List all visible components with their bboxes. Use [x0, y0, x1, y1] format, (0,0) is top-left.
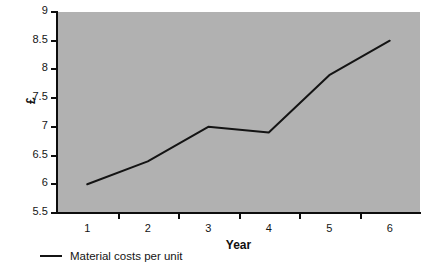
legend: Material costs per unit	[40, 250, 183, 262]
y-axis-tick-label: 6.5	[32, 148, 48, 160]
x-axis-tick-label: 4	[249, 222, 289, 234]
y-axis-tick-label: 7	[42, 119, 48, 131]
series-material-costs-per-unit	[57, 12, 420, 213]
line-chart-figure: 5.566.577.588.59 £ 123456 Year Material …	[0, 0, 440, 273]
x-axis-tick-label: 3	[188, 222, 228, 234]
x-axis-tick-mark	[360, 213, 362, 219]
series-line-material-costs-per-unit	[87, 41, 390, 185]
x-axis-tick-mark	[239, 213, 241, 219]
legend-swatch-material-costs-per-unit	[40, 255, 62, 257]
y-axis-tick-label: 5.5	[32, 205, 48, 217]
y-axis-tick-label: 8	[42, 61, 48, 73]
x-axis-tick-mark	[118, 213, 120, 219]
y-axis-tick-label: 6	[42, 176, 48, 188]
x-axis-tick-label: 6	[370, 222, 410, 234]
legend-label-material-costs-per-unit: Material costs per unit	[70, 250, 183, 262]
x-axis-tick-mark	[299, 213, 301, 219]
x-axis-tick-label: 1	[67, 222, 107, 234]
x-axis-tick-mark	[178, 213, 180, 219]
x-axis-tick-label: 2	[128, 222, 168, 234]
y-axis-tick-label: 9	[42, 4, 48, 16]
x-axis-tick-label: 5	[309, 222, 349, 234]
y-axis-tick-label: 8.5	[32, 33, 48, 45]
y-axis-title: £	[24, 97, 38, 104]
